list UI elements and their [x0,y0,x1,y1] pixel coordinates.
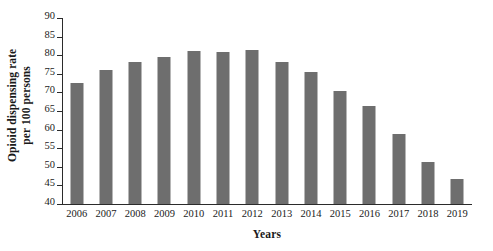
bar-slot [296,18,325,204]
x-axis-tick-label: 2012 [242,209,263,220]
y-axis-title-line-1: Opioid dispensing rate [6,48,20,161]
bar [158,57,171,204]
x-axis-tick-label: 2010 [183,209,204,220]
bar [129,62,142,204]
x-axis-tick-label: 2006 [66,209,87,220]
bar [275,62,288,204]
bar-chart-figure: Opioid dispensing rate per 100 persons 4… [0,0,493,251]
bar [451,179,464,204]
y-axis-tick-label: 45 [45,178,56,189]
x-axis-title: Years [62,228,472,240]
y-axis-tick-label: 55 [45,141,56,152]
bar [304,72,317,204]
x-axis-line [62,204,472,205]
x-axis-tick-label: 2007 [95,209,116,220]
y-axis-tick-label: 60 [45,123,56,134]
y-axis-tick-label: 90 [45,11,56,22]
bar [217,52,230,204]
bar-slot [179,18,208,204]
bar-slot [355,18,384,204]
x-axis-tick-label: 2014 [300,209,321,220]
bar [363,106,376,204]
bar-slot [208,18,237,204]
bar [422,162,435,204]
x-axis-tick-label: 2013 [271,209,292,220]
y-axis-tick-label: 40 [45,197,56,208]
y-axis-tick-label: 75 [45,67,56,78]
plot-area: 4045505560657075808590 20062007200820092… [62,18,472,204]
bar-slot [238,18,267,204]
x-axis-tick-label: 2011 [213,209,234,220]
bar [99,70,112,204]
y-axis-tick-label: 65 [45,104,56,115]
bar-slot [443,18,472,204]
bar-series [62,18,472,204]
bar [392,134,405,204]
x-axis-tick-label: 2018 [418,209,439,220]
bar [246,50,259,204]
bar-slot [62,18,91,204]
y-axis-tick-label: 80 [45,48,56,59]
y-axis-tick-label: 70 [45,85,56,96]
bar-slot [91,18,120,204]
bar-slot [326,18,355,204]
x-axis-tick-label: 2009 [154,209,175,220]
x-axis-tick-label: 2008 [125,209,146,220]
x-axis-tick-label: 2019 [447,209,468,220]
y-axis-title: Opioid dispensing rate per 100 persons [0,0,40,210]
y-axis-tick-label: 50 [45,160,56,171]
y-axis-tick-label: 85 [45,30,56,41]
bar [70,83,83,204]
x-axis-tick-label: 2015 [330,209,351,220]
y-axis-title-line-2: per 100 persons [20,48,34,161]
x-axis-tick-label: 2016 [359,209,380,220]
bar-slot [150,18,179,204]
y-axis-tick-mark [57,204,62,205]
bar [334,91,347,204]
bar-slot [267,18,296,204]
bar [187,51,200,204]
x-axis-tick-label: 2017 [388,209,409,220]
bar-slot [384,18,413,204]
bar-slot [413,18,442,204]
bar-slot [121,18,150,204]
